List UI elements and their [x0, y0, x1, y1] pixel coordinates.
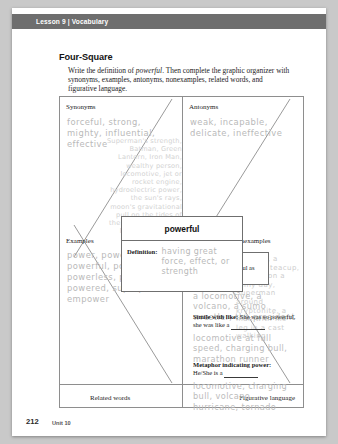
unit-label: Unit 10	[52, 420, 71, 426]
directions-target-word: powerful	[136, 66, 162, 75]
four-square-organizer: Synonyms Antonyms Examples Nonexamples R…	[59, 96, 304, 408]
running-head-band: Lesson 9 | Vocabulary	[12, 14, 326, 29]
worksheet-page: Lesson 9 | Vocabulary Four-Square Write …	[12, 8, 326, 436]
page-number: 212	[26, 417, 39, 426]
simile-like-label: Simile with like:	[193, 313, 238, 320]
definition-row: Definition: having great force, effect, …	[122, 241, 242, 277]
metaphor-sentence: He/She is a	[193, 369, 223, 376]
center-definition-card: powerful Definition: having great force,…	[121, 216, 243, 292]
simile-like-blank[interactable]	[231, 323, 265, 330]
answer-simile-like[interactable]: locomotive at full speed, charging bull,…	[193, 333, 299, 364]
definition-label: Definition:	[127, 247, 157, 277]
answer-antonyms[interactable]: weak, incapable, delicate, ineffective	[190, 117, 298, 139]
center-vocabulary-word: powerful	[122, 217, 242, 234]
simile-like-block: Simile with like: She was so powerful, s…	[193, 313, 299, 330]
metaphor-prompt-text: Metaphor indicating power: He/She is a	[193, 361, 299, 378]
answer-metaphor[interactable]: locomotive, charging bull, volcano, hurr…	[193, 381, 299, 412]
label-antonyms: Antonyms	[189, 103, 218, 111]
directions-pre: Write the definition of	[68, 66, 136, 75]
metaphor-block: Metaphor indicating power: He/She is a	[193, 361, 299, 378]
label-examples: Examples	[66, 237, 94, 245]
directions-text: Write the definition of powerful. Then c…	[68, 66, 290, 94]
simile-like-prompt-text: Simile with like: She was so powerful, s…	[193, 313, 299, 330]
definition-answer[interactable]: having great force, effect, or strength	[161, 247, 237, 277]
metaphor-blank[interactable]	[224, 371, 258, 378]
running-head-text: Lesson 9 | Vocabulary	[12, 18, 108, 25]
page-title: Four-Square	[59, 52, 113, 62]
metaphor-label: Metaphor indicating power:	[193, 361, 271, 368]
label-synonyms: Synonyms	[66, 103, 96, 111]
label-related-words: Related words	[90, 394, 130, 402]
